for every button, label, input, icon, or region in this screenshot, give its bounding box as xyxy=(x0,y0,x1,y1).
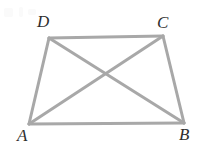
segment-DB xyxy=(49,38,184,123)
vertex-label-c: C xyxy=(157,14,168,31)
vertex-label-a: A xyxy=(17,127,27,144)
vertex-label-b: B xyxy=(179,126,189,143)
geometry-figure: D C A B xyxy=(0,0,203,148)
segment-AB xyxy=(29,123,184,124)
segment-BC xyxy=(163,36,184,123)
geometry-svg xyxy=(0,0,203,148)
vertex-label-d: D xyxy=(37,13,49,30)
segment-AC xyxy=(29,36,163,124)
segments-group xyxy=(29,36,184,124)
segment-DC xyxy=(49,36,163,38)
